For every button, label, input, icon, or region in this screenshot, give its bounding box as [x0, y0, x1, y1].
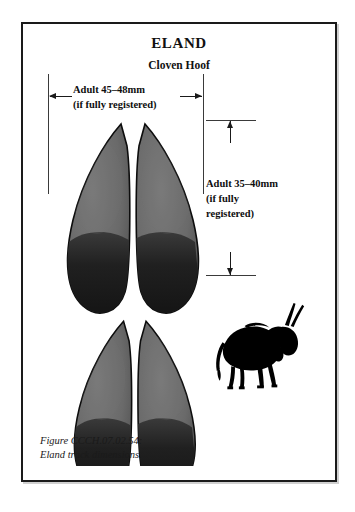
length-dimension-label-line1: Adult 35–40mm	[206, 178, 278, 189]
figure-caption-line1: Figure CCCH.07.02.54:	[40, 434, 220, 448]
length-extension-line-bottom	[206, 275, 256, 276]
page-title: ELAND	[23, 35, 335, 52]
width-arrow-head-left-icon	[49, 93, 56, 99]
length-arrow-head-top-icon	[227, 121, 233, 128]
length-arrow-head-bottom-icon	[227, 268, 233, 275]
hoof-print-diagram	[53, 116, 213, 466]
hoof-print-upper-left	[59, 124, 133, 326]
width-arrow-head-right-icon	[195, 93, 202, 99]
hoof-print-upper-right	[129, 124, 203, 326]
length-dimension-label-line3: registered)	[206, 208, 254, 219]
figure-caption-line2: Eland track dimensions.	[40, 448, 220, 462]
figure-subtitle: Cloven Hoof	[23, 59, 335, 71]
eland-silhouette-icon	[212, 300, 308, 396]
figure-caption: Figure CCCH.07.02.54: Eland track dimens…	[40, 434, 220, 462]
width-dimension-label-line2: (if fully registered)	[73, 99, 157, 110]
figure-plate: ELAND Cloven Hoof Adult 45–48mm (if full…	[21, 22, 337, 482]
width-dimension-label-line1: Adult 45–48mm	[73, 84, 145, 95]
